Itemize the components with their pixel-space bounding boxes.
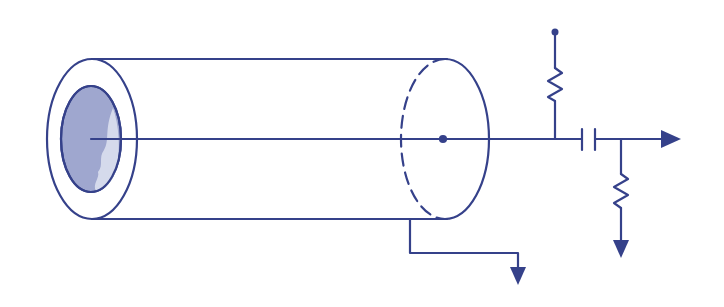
shield-ground-arrow-icon bbox=[510, 267, 526, 285]
load-ground-arrow-icon bbox=[613, 240, 629, 258]
bias-resistor bbox=[548, 68, 562, 101]
shield-ground-wire bbox=[410, 219, 518, 268]
center-conductor-dot bbox=[440, 136, 446, 142]
output-arrow-icon bbox=[661, 130, 681, 148]
load-resistor bbox=[614, 174, 628, 208]
supply-node-dot bbox=[552, 29, 559, 36]
coax-circuit-diagram bbox=[0, 0, 724, 307]
